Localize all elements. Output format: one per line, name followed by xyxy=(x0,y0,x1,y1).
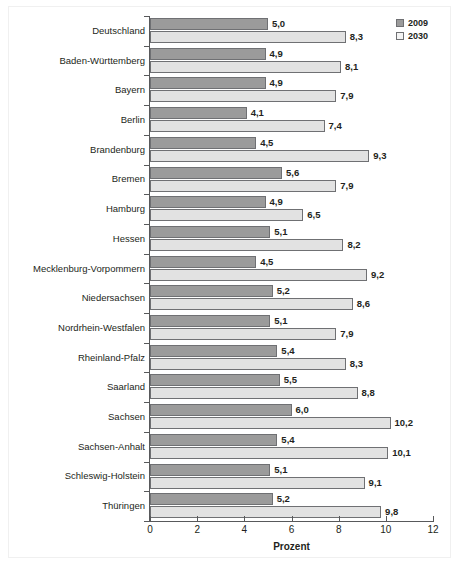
y-axis-tick xyxy=(144,491,150,492)
bar-group: 5,17,9 xyxy=(150,313,433,343)
bar-value-label: 5,5 xyxy=(284,374,297,386)
legend-item[interactable]: 2030 xyxy=(396,30,428,42)
x-axis-tick-label: 6 xyxy=(289,524,295,535)
bar-group: 4,59,2 xyxy=(150,254,433,284)
bar-2030[interactable] xyxy=(150,298,353,310)
bar-value-label: 6,5 xyxy=(307,209,320,221)
category-label: Hamburg xyxy=(0,203,145,214)
bar-2030[interactable] xyxy=(150,358,346,370)
bar-value-label: 7,4 xyxy=(329,120,342,132)
bar-2030[interactable] xyxy=(150,120,325,132)
legend-item[interactable]: 2009 xyxy=(396,17,428,29)
y-axis-tick xyxy=(144,372,150,373)
bar-2009[interactable] xyxy=(150,107,247,119)
x-axis-tick xyxy=(244,516,245,522)
bar-value-label: 9,2 xyxy=(371,269,384,281)
bar-value-label: 9,8 xyxy=(385,506,398,518)
bar-value-label: 10,1 xyxy=(392,447,411,459)
bar-2009[interactable] xyxy=(150,404,292,416)
bar-2009[interactable] xyxy=(150,18,268,30)
bar-2009[interactable] xyxy=(150,137,256,149)
x-axis-tick xyxy=(386,516,387,522)
bar-value-label: 8,6 xyxy=(357,298,370,310)
bar-value-label: 8,2 xyxy=(347,239,360,251)
bar-2030[interactable] xyxy=(150,506,381,518)
category-label: Nordrhein-Westfalen xyxy=(0,322,145,333)
y-axis-tick xyxy=(144,105,150,106)
y-axis-tick xyxy=(144,313,150,314)
bar-2009[interactable] xyxy=(150,256,256,268)
bar-value-label: 4,9 xyxy=(270,48,283,60)
bar-2030[interactable] xyxy=(150,61,341,73)
bar-value-label: 5,1 xyxy=(274,315,287,327)
y-axis-tick xyxy=(144,402,150,403)
bar-2009[interactable] xyxy=(150,464,270,476)
category-axis-labels: DeutschlandBaden-WürttembergBayernBerlin… xyxy=(0,16,145,521)
bar-value-label: 4,9 xyxy=(270,77,283,89)
bar-2030[interactable] xyxy=(150,387,358,399)
legend-swatch-icon xyxy=(396,19,404,27)
y-axis-tick xyxy=(144,283,150,284)
x-axis-tick-label: 0 xyxy=(147,524,153,535)
x-axis-tick-label: 12 xyxy=(427,524,438,535)
bar-2030[interactable] xyxy=(150,477,365,489)
chart-page: DeutschlandBaden-WürttembergBayernBerlin… xyxy=(0,0,459,568)
bar-2030[interactable] xyxy=(150,328,336,340)
legend-swatch-icon xyxy=(396,32,404,40)
bar-value-label: 4,5 xyxy=(260,137,273,149)
category-label: Schleswig-Holstein xyxy=(0,470,145,481)
bar-2009[interactable] xyxy=(150,374,280,386)
x-axis-tick xyxy=(339,516,340,522)
bar-group: 4,96,5 xyxy=(150,194,433,224)
y-axis-tick xyxy=(144,224,150,225)
bar-2009[interactable] xyxy=(150,315,270,327)
bar-value-label: 5,2 xyxy=(277,285,290,297)
y-axis-tick xyxy=(144,46,150,47)
legend-label: 2009 xyxy=(408,18,428,28)
bar-value-label: 8,3 xyxy=(350,31,363,43)
bar-group: 5,19,1 xyxy=(150,462,433,492)
bar-value-label: 9,3 xyxy=(373,150,386,162)
x-axis-tick xyxy=(197,516,198,522)
bar-2009[interactable] xyxy=(150,77,266,89)
bar-group: 4,97,9 xyxy=(150,75,433,105)
bar-group: 4,17,4 xyxy=(150,105,433,135)
x-axis-title: Prozent xyxy=(150,541,433,552)
bar-value-label: 9,1 xyxy=(369,477,382,489)
x-axis-tick xyxy=(433,516,434,522)
y-axis-tick xyxy=(144,521,150,522)
bar-group: 5,48,3 xyxy=(150,343,433,373)
category-label: Berlin xyxy=(0,114,145,125)
bar-2030[interactable] xyxy=(150,209,303,221)
bar-value-label: 5,6 xyxy=(286,167,299,179)
bar-value-label: 5,1 xyxy=(274,226,287,238)
bar-2030[interactable] xyxy=(150,31,346,43)
bar-2030[interactable] xyxy=(150,417,391,429)
bar-2009[interactable] xyxy=(150,196,266,208)
x-axis-tick xyxy=(150,516,151,522)
bar-value-label: 8,8 xyxy=(362,387,375,399)
bar-2009[interactable] xyxy=(150,48,266,60)
bar-2009[interactable] xyxy=(150,345,277,357)
y-axis-tick xyxy=(144,432,150,433)
bar-2030[interactable] xyxy=(150,180,336,192)
bar-group: 6,010,2 xyxy=(150,402,433,432)
y-axis-tick xyxy=(144,75,150,76)
bar-2009[interactable] xyxy=(150,434,277,446)
bar-value-label: 6,0 xyxy=(296,404,309,416)
category-label: Brandenburg xyxy=(0,144,145,155)
bar-2030[interactable] xyxy=(150,90,336,102)
category-label: Bayern xyxy=(0,84,145,95)
category-label: Thüringen xyxy=(0,500,145,511)
bar-2009[interactable] xyxy=(150,167,282,179)
bar-group: 4,59,3 xyxy=(150,135,433,165)
bar-2009[interactable] xyxy=(150,226,270,238)
bar-2009[interactable] xyxy=(150,285,273,297)
bar-2030[interactable] xyxy=(150,239,343,251)
bar-2009[interactable] xyxy=(150,493,273,505)
bar-2030[interactable] xyxy=(150,269,367,281)
bar-value-label: 5,2 xyxy=(277,493,290,505)
bar-2030[interactable] xyxy=(150,447,388,459)
bar-value-label: 7,9 xyxy=(340,180,353,192)
bar-2030[interactable] xyxy=(150,150,369,162)
